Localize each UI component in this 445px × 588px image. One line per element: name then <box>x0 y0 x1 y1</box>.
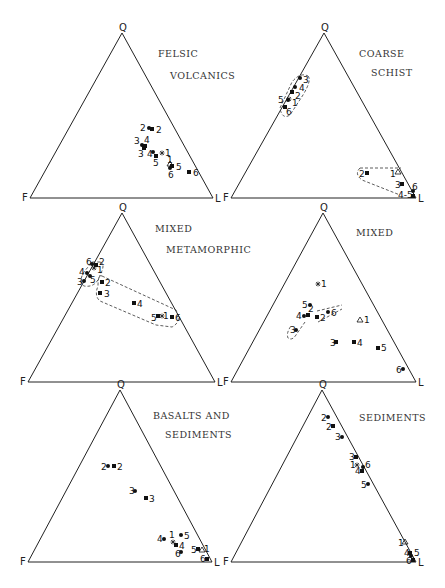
point-label: 2 <box>320 313 326 323</box>
point-label: 4 <box>355 466 361 476</box>
point-label: 3 <box>134 136 140 146</box>
data-point: 1 <box>92 265 103 275</box>
point-label: 4 <box>79 267 85 277</box>
data-point: 4 <box>132 299 143 309</box>
point-label: 6 <box>365 460 371 470</box>
point-label: 6 <box>406 556 412 566</box>
square-marker-icon <box>144 496 148 500</box>
square-marker-icon <box>290 90 294 94</box>
ternary-plot: QFLFELSICVOLCANICS223434511566 <box>22 22 235 204</box>
point-label: 4-5 <box>398 190 413 200</box>
data-point: 3 <box>144 494 155 504</box>
data-point: 4 <box>296 311 306 321</box>
data-point: 1 <box>316 279 327 289</box>
data-point: 3 <box>77 277 86 287</box>
data-point: 6 <box>283 105 292 117</box>
ternary-plot: QFLMIXED154226133456 <box>223 202 424 388</box>
square-marker-icon <box>112 464 116 468</box>
vertex-label-f: F <box>22 192 28 203</box>
data-point: 3 <box>134 136 144 147</box>
ternary-plot: QFLBASALTS ANDSEDIMENTS223341546516 <box>20 379 232 568</box>
point-label: 3 <box>290 325 296 335</box>
plot-title: MIXED <box>155 223 192 234</box>
point-label: 1 <box>398 538 404 548</box>
plot-title: COARSE <box>359 48 405 59</box>
circle-marker-icon <box>179 533 183 537</box>
data-point: 3 <box>138 146 146 159</box>
data-point: 2 <box>140 123 151 133</box>
point-label: 2 <box>117 462 123 472</box>
vertex-label-l: L <box>214 557 220 568</box>
vertex-label-l: L <box>215 193 221 204</box>
data-point: 3 <box>129 486 137 496</box>
point-label: 6 <box>193 168 199 178</box>
point-label: 4 <box>137 299 143 309</box>
plot-title: SEDIMENTS <box>165 429 232 440</box>
point-label: 5 <box>184 531 190 541</box>
point-label: 2 <box>105 278 111 288</box>
square-marker-icon <box>98 291 102 295</box>
point-label: 3 <box>335 432 341 442</box>
vertex-label-f: F <box>20 556 26 567</box>
vertex-label-q: Q <box>319 379 327 390</box>
data-point: 1 <box>390 169 401 179</box>
point-label: 6 <box>396 365 402 375</box>
data-point: 6 <box>175 549 183 559</box>
point-label: 6 <box>331 308 337 318</box>
point-label: 1 <box>292 98 298 108</box>
point-label: 4 <box>157 534 163 544</box>
point-label: 5 <box>90 275 96 285</box>
point-label: 4 <box>357 338 363 348</box>
data-point: 3 <box>395 180 404 190</box>
ternary-diagram-grid: QFLFELSICVOLCANICS223434511566QFLCOARSES… <box>0 0 445 588</box>
data-point: 4 <box>352 338 363 348</box>
vertex-label-l: L <box>418 377 424 388</box>
data-point: 5 <box>88 274 96 285</box>
point-label: 6 <box>175 313 181 323</box>
plot-title: FELSIC <box>158 48 198 59</box>
square-marker-icon <box>365 171 369 175</box>
plot-title: SCHIST <box>371 67 413 78</box>
data-point: 1 <box>199 544 210 554</box>
data-point: 6 <box>168 166 174 180</box>
point-label: 6 <box>286 107 292 117</box>
point-label: 1 <box>204 544 210 554</box>
data-point: 5 <box>151 313 160 323</box>
data-point: 6 <box>396 365 405 375</box>
square-marker-icon <box>376 346 380 350</box>
vertex-label-f: F <box>223 192 229 203</box>
point-label: 3 <box>129 486 135 496</box>
point-label: 2 <box>140 123 146 133</box>
data-point: 2 <box>306 304 314 317</box>
data-point: 3 <box>335 432 344 442</box>
plot-title: VOLCANICS <box>169 70 235 81</box>
plot-title: MIXED <box>356 227 393 238</box>
triangle-frame <box>28 213 215 382</box>
point-label: 3 <box>149 494 155 504</box>
point-label: 3 <box>395 180 401 190</box>
triangle-marker-icon <box>357 317 363 322</box>
point-label: 5 <box>191 545 197 555</box>
point-label: 6 <box>86 257 92 267</box>
data-point: 6 <box>187 168 199 178</box>
vertex-label-l: L <box>418 557 424 568</box>
vertex-label-f: F <box>20 376 26 387</box>
point-label: 4 <box>296 311 302 321</box>
ternary-plot: QFLSEDIMENTS223316451456 <box>223 379 426 568</box>
data-point: 1 <box>169 530 176 545</box>
data-point: 2 <box>150 125 162 135</box>
data-point: 3 <box>290 325 298 335</box>
vertex-label-q: Q <box>117 379 125 390</box>
point-label: 2 <box>156 125 162 135</box>
data-point: 6 <box>170 313 181 323</box>
data-point: 1 <box>160 311 169 321</box>
point-label: 2 <box>326 422 332 432</box>
point-label: 1 <box>97 265 103 275</box>
square-marker-icon <box>174 543 178 547</box>
plot-title: BASALTS AND <box>153 410 230 421</box>
vertex-label-q: Q <box>321 22 329 33</box>
square-marker-icon <box>170 315 174 319</box>
qfl-ternary-plots: QFLFELSICVOLCANICS223434511566QFLCOARSES… <box>0 0 445 588</box>
point-label: 4 <box>144 135 150 145</box>
data-point: 5 <box>361 480 370 490</box>
